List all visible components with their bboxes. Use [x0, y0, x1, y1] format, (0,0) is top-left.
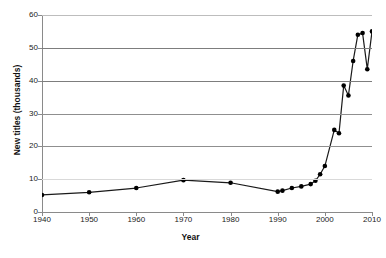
gridline [42, 114, 372, 115]
y-tick-mark [38, 146, 42, 147]
data-point-marker [228, 180, 233, 185]
x-tick-mark [42, 212, 43, 216]
y-tick-label: 60 [8, 11, 38, 19]
data-point-marker [341, 83, 346, 88]
x-tick-label: 1980 [211, 215, 251, 225]
data-point-marker [365, 67, 370, 72]
x-axis-line [42, 212, 373, 213]
x-tick-mark [89, 212, 90, 216]
gridline [42, 81, 372, 82]
x-tick-mark [136, 212, 137, 216]
plot-area [42, 15, 372, 212]
y-tick-label: 50 [8, 44, 38, 52]
data-point-marker [370, 29, 372, 34]
data-point-marker [356, 32, 361, 37]
gridline [42, 146, 372, 147]
data-point-marker [337, 131, 342, 136]
data-point-marker [332, 128, 337, 133]
y-tick-mark [38, 114, 42, 115]
y-tick-label: 20 [8, 142, 38, 150]
data-point-marker [323, 164, 328, 169]
x-tick-label: 1970 [163, 215, 203, 225]
y-tick-label: 10 [8, 175, 38, 183]
x-tick-mark [278, 212, 279, 216]
x-tick-label: 2000 [305, 215, 345, 225]
gridline [42, 179, 372, 180]
data-point-marker [290, 186, 295, 191]
x-tick-mark [372, 212, 373, 216]
data-point-marker [134, 186, 139, 191]
data-point-marker [280, 188, 285, 193]
data-point-marker [360, 31, 365, 36]
data-point-marker [87, 190, 92, 195]
data-point-marker [299, 184, 304, 189]
x-axis-title: Year [0, 232, 381, 242]
y-tick-mark [38, 179, 42, 180]
x-tick-label: 1990 [258, 215, 298, 225]
y-tick-mark [38, 81, 42, 82]
y-tick-mark [38, 15, 42, 16]
gridline [42, 15, 372, 16]
data-point-marker [42, 193, 44, 198]
y-tick-label: 30 [8, 110, 38, 118]
x-tick-mark [231, 212, 232, 216]
y-tick-mark [38, 48, 42, 49]
data-point-marker [318, 172, 323, 177]
x-tick-label: 1940 [22, 215, 62, 225]
x-tick-mark [325, 212, 326, 216]
x-tick-label: 1960 [116, 215, 156, 225]
x-tick-label: 1950 [69, 215, 109, 225]
gridline [42, 48, 372, 49]
x-tick-mark [183, 212, 184, 216]
x-tick-label: 2010 [352, 215, 386, 225]
data-point-marker [351, 59, 356, 64]
x-axis-tick-labels: 19401950196019701980199020002010 [0, 215, 381, 231]
data-point-marker [275, 189, 280, 194]
data-point-marker [346, 93, 351, 98]
data-point-marker [308, 182, 313, 187]
y-tick-label: 40 [8, 77, 38, 85]
